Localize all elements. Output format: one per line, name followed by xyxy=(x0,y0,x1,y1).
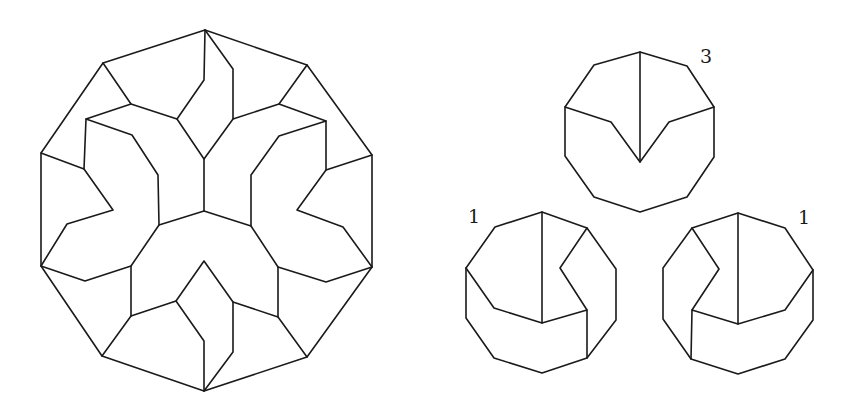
small-decagon-three: 3 xyxy=(565,45,714,212)
large-decagon-cut-line xyxy=(205,30,307,119)
large-decagon-cut-line xyxy=(102,266,131,356)
large-decagon-cut-line xyxy=(204,121,326,226)
large-decagon-cut-line xyxy=(86,119,204,225)
large-decagon-cut-line xyxy=(131,261,278,317)
large-decagon-cut-line xyxy=(204,119,233,159)
large-decagon-cut-line xyxy=(41,104,131,169)
decagon-dissection-figure: 3 1 1 xyxy=(0,0,853,405)
large-decagon xyxy=(41,30,372,391)
large-decagon-outline xyxy=(41,30,372,391)
large-decagon-cut-line xyxy=(297,170,372,267)
multiplicity-label-three: 3 xyxy=(700,45,712,67)
large-decagon-cut-line xyxy=(103,30,205,119)
small-decagon-cut-line xyxy=(692,228,719,310)
large-decagon-cut-line xyxy=(41,225,159,281)
large-decagon-cut-line xyxy=(278,267,307,357)
large-decagon-cut-line xyxy=(177,119,204,211)
multiplicity-label-one-left: 1 xyxy=(468,205,480,227)
large-decagon-cut-line xyxy=(41,169,113,266)
large-decagon-cut-line xyxy=(176,301,204,391)
small-decagon-one-right: 1 xyxy=(663,206,813,374)
multiplicity-label-one-right: 1 xyxy=(798,206,810,228)
large-decagon-cut-line xyxy=(204,302,233,391)
diagram-canvas: 3 1 1 xyxy=(0,0,853,405)
small-decagon-outline xyxy=(466,212,616,373)
small-decagon-one-left: 1 xyxy=(466,205,616,373)
small-decagon-cut-line xyxy=(560,228,587,310)
large-decagon-cut-line xyxy=(251,226,372,282)
